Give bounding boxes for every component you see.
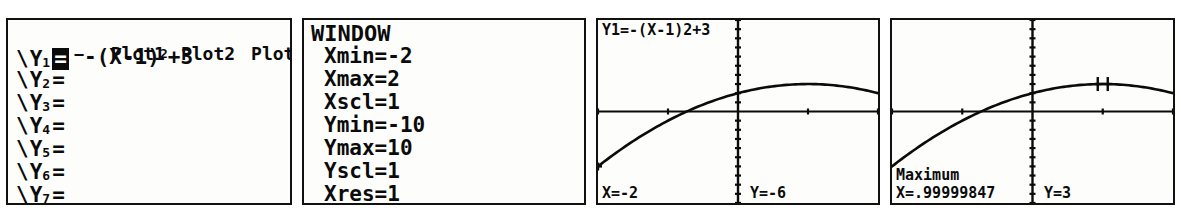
function-name-y4: Y bbox=[30, 115, 43, 137]
function-select-marker-y4: \ bbox=[16, 115, 29, 137]
window-settings-panel[interactable]: WINDOW Xmin=-2 Xmax=2 Xscl=1 Ymin=-10 Ym… bbox=[302, 18, 586, 205]
function-row-y3[interactable]: \Y3= bbox=[16, 92, 70, 114]
negate-sign-icon: − bbox=[74, 43, 84, 65]
function-row-y5[interactable]: \Y5= bbox=[16, 138, 70, 160]
window-row-xres[interactable]: Xres=1 bbox=[324, 183, 400, 205]
trace-y-readout: Y=-6 bbox=[750, 185, 786, 202]
window-row-yscl[interactable]: Yscl=1 bbox=[324, 160, 400, 182]
window-label-ymin: Ymin bbox=[324, 113, 375, 137]
maximum-graph-lcd: Maximum X=.99999847 Y=3 bbox=[892, 20, 1173, 203]
expression-base-y1: -(X-1) bbox=[84, 45, 160, 69]
expression-suffix-y1: +3 bbox=[168, 45, 193, 69]
window-title: WINDOW bbox=[311, 22, 390, 45]
window-row-ymax[interactable]: Ymax=10 bbox=[324, 137, 413, 159]
function-select-marker-y2: \ bbox=[16, 69, 29, 91]
maximum-graph-panel[interactable]: Maximum X=.99999847 Y=3 bbox=[890, 18, 1175, 205]
trace-graph-lcd: Y1=-(X-1)2+3 X=-2 Y=-6 bbox=[598, 20, 878, 203]
function-select-marker-y3: \ bbox=[16, 92, 29, 114]
window-value-yscl[interactable]: 1 bbox=[387, 159, 400, 183]
function-row-y4[interactable]: \Y4= bbox=[16, 115, 70, 137]
function-select-marker-y6: \ bbox=[16, 161, 29, 183]
window-label-xmax: Xmax bbox=[324, 67, 375, 91]
maximum-y-readout: Y=3 bbox=[1044, 185, 1071, 202]
function-row-y7[interactable]: \Y7= bbox=[16, 184, 70, 205]
maximum-cursor-icon bbox=[1096, 77, 1110, 91]
function-index-y7: 7 bbox=[42, 188, 50, 205]
window-row-xscl[interactable]: Xscl=1 bbox=[324, 91, 400, 113]
function-equals-y3[interactable]: = bbox=[52, 92, 65, 114]
function-name-y5: Y bbox=[30, 138, 43, 160]
maximum-status-label: Maximum bbox=[896, 167, 959, 184]
function-equals-y5[interactable]: = bbox=[52, 138, 65, 160]
window-value-xres[interactable]: 1 bbox=[387, 182, 400, 205]
function-name-y7: Y bbox=[30, 184, 43, 205]
trace-graph-panel[interactable]: Y1=-(X-1)2+3 X=-2 Y=-6 bbox=[596, 18, 880, 205]
function-equals-y7[interactable]: = bbox=[52, 184, 65, 205]
function-row-y2[interactable]: \Y2= bbox=[16, 69, 70, 91]
window-value-xmin[interactable]: -2 bbox=[387, 44, 412, 68]
window-value-ymin[interactable]: -10 bbox=[387, 113, 425, 137]
window-label-ymax: Ymax bbox=[324, 136, 375, 160]
maximum-x-readout: X=.99999847 bbox=[896, 185, 995, 202]
window-label-yscl: Yscl bbox=[324, 159, 375, 183]
function-row-y1[interactable]: \Y1=−-(X-1)2+3 bbox=[16, 46, 193, 71]
function-name-y2: Y bbox=[30, 69, 43, 91]
function-equals-y2[interactable]: = bbox=[52, 69, 65, 91]
window-row-ymin[interactable]: Ymin=-10 bbox=[324, 114, 425, 136]
function-equals-y4[interactable]: = bbox=[52, 115, 65, 137]
plot-tab-plot3[interactable]: Plot3 bbox=[251, 44, 292, 64]
function-expression-y1[interactable]: −-(X-1)2+3 bbox=[74, 46, 193, 71]
function-row-y6[interactable]: \Y6= bbox=[16, 161, 70, 183]
y-editor-lcd: Plot1Plot2Plot3 \Y1=−-(X-1)2+3 \Y2= \Y3=… bbox=[8, 20, 290, 203]
window-lcd: WINDOW Xmin=-2 Xmax=2 Xscl=1 Ymin=-10 Ym… bbox=[304, 20, 584, 203]
trace-plot-svg bbox=[598, 20, 878, 203]
expression-exponent-y1: 2 bbox=[160, 46, 168, 61]
window-label-xscl: Xscl bbox=[324, 90, 375, 114]
trace-equation-header: Y1=-(X-1)2+3 bbox=[602, 22, 710, 39]
calculator-screenshot-strip: Plot1Plot2Plot3 \Y1=−-(X-1)2+3 \Y2= \Y3=… bbox=[0, 0, 1181, 217]
window-value-ymax[interactable]: 10 bbox=[387, 136, 412, 160]
window-label-xmin: Xmin bbox=[324, 44, 375, 68]
function-equals-y1[interactable]: = bbox=[52, 48, 69, 70]
window-row-xmax[interactable]: Xmax=2 bbox=[324, 68, 400, 90]
function-name-y1: Y bbox=[30, 48, 43, 70]
function-name-y6: Y bbox=[30, 161, 43, 183]
trace-x-readout: X=-2 bbox=[602, 185, 638, 202]
function-select-marker-y1: \ bbox=[16, 48, 29, 70]
function-select-marker-y5: \ bbox=[16, 138, 29, 160]
window-value-xmax[interactable]: 2 bbox=[387, 67, 400, 91]
function-name-y3: Y bbox=[30, 92, 43, 114]
window-value-xscl[interactable]: 1 bbox=[387, 90, 400, 114]
function-select-marker-y7: \ bbox=[16, 184, 29, 205]
window-label-xres: Xres bbox=[324, 182, 375, 205]
y-editor-panel[interactable]: Plot1Plot2Plot3 \Y1=−-(X-1)2+3 \Y2= \Y3=… bbox=[6, 18, 292, 205]
window-row-xmin[interactable]: Xmin=-2 bbox=[324, 45, 413, 67]
function-equals-y6[interactable]: = bbox=[52, 161, 65, 183]
